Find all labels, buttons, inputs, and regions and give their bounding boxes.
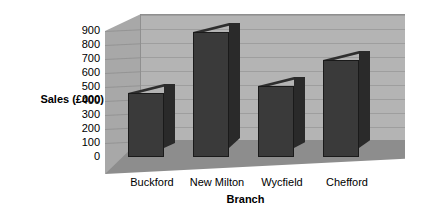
bar-side-face	[294, 77, 305, 148]
bar-front-face	[128, 93, 164, 157]
bar-side-face	[359, 51, 370, 148]
y-tick-label: 200	[62, 123, 100, 134]
y-tick-label: 700	[62, 53, 100, 64]
y-tick-label: 600	[62, 67, 100, 78]
bar-side-face	[229, 23, 240, 148]
bar-front-face	[323, 60, 359, 157]
bar-side-face	[164, 84, 175, 148]
y-tick-label: 500	[62, 81, 100, 92]
bar-buckford[interactable]	[128, 14, 164, 157]
bars-layer	[105, 14, 405, 176]
x-axis-ticks: BuckfordNew MiltonWycfieldChefford	[0, 176, 433, 194]
bar-front-face	[193, 32, 229, 157]
bar-chart: Sales (£000) 900800700600500400300200100…	[0, 0, 433, 222]
y-tick-label: 900	[62, 25, 100, 36]
bar-front-face	[258, 86, 294, 157]
x-tick-label: Chefford	[302, 176, 392, 188]
plot-area	[105, 14, 405, 176]
x-axis-title: Branch	[0, 193, 433, 205]
y-axis-title: Sales (£000)	[12, 93, 104, 105]
y-tick-label: 300	[62, 109, 100, 120]
y-tick-label: 800	[62, 39, 100, 50]
bar-chefford[interactable]	[323, 14, 359, 157]
bar-new-milton[interactable]	[193, 14, 229, 157]
y-tick-label: 0	[62, 151, 100, 162]
bar-wycfield[interactable]	[258, 14, 294, 157]
y-tick-label: 100	[62, 137, 100, 148]
